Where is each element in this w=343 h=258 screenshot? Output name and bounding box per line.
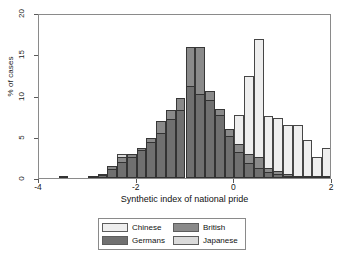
histogram-bar [254, 168, 264, 178]
histogram-bar [156, 133, 166, 178]
plot-area [38, 14, 331, 179]
legend-label-germans: Germans [132, 236, 165, 245]
y-tick-label: 10 [17, 87, 26, 105]
histogram-bar [283, 176, 293, 178]
histogram-bar [88, 176, 98, 178]
x-tick-label: -4 [25, 182, 51, 192]
histogram-bar [176, 110, 186, 178]
histogram-bar [107, 169, 117, 178]
histogram-figure: % of cases 05101520 -4-202 Synthetic ind… [0, 0, 343, 258]
histogram-bar [137, 150, 147, 178]
y-tick-label: 20 [17, 5, 26, 23]
histogram-bar [312, 176, 322, 178]
histogram-bar [234, 152, 244, 178]
legend-label-japanese: Japanese [203, 236, 238, 245]
legend-swatch-british [173, 223, 199, 232]
histogram-bar [273, 174, 283, 178]
y-tick-label: 15 [17, 46, 26, 64]
histogram-bar [205, 100, 215, 178]
histogram-bar [264, 172, 274, 178]
histogram-bar [117, 162, 127, 178]
legend-label-british: British [203, 223, 225, 232]
x-tick-label: 0 [220, 182, 246, 192]
legend-label-chinese: Chinese [132, 223, 161, 232]
x-tick-label: -2 [123, 182, 149, 192]
legend-swatch-japanese [173, 236, 199, 245]
x-axis-title: Synthetic index of national pride [38, 194, 331, 204]
histogram-bar [59, 176, 69, 178]
histogram-bar [303, 176, 313, 178]
bars-series-germans [39, 15, 330, 178]
histogram-bar [244, 163, 254, 178]
legend-item-chinese[interactable]: Chinese [102, 221, 171, 234]
legend-item-germans[interactable]: Germans [102, 235, 171, 248]
chart-legend: Chinese British Germans Japanese [98, 218, 246, 250]
legend-item-british[interactable]: British [173, 221, 242, 234]
histogram-bar [186, 86, 196, 178]
histogram-bar [195, 94, 205, 178]
y-tick-label: 5 [17, 128, 26, 146]
histogram-bar [127, 157, 137, 178]
histogram-bar [215, 115, 225, 178]
y-axis-title: % of cases [6, 32, 15, 122]
legend-swatch-germans [102, 236, 128, 245]
histogram-bar [98, 175, 108, 178]
legend-item-japanese[interactable]: Japanese [173, 235, 242, 248]
histogram-bar [146, 142, 156, 178]
histogram-bar [225, 136, 235, 178]
histogram-bar [322, 176, 331, 178]
histogram-bar [293, 176, 303, 178]
x-tick-label: 2 [318, 182, 343, 192]
legend-swatch-chinese [102, 223, 128, 232]
histogram-bar [166, 119, 176, 178]
